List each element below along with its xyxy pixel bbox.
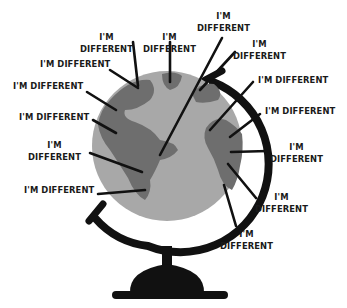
label-line: I'M DIFFERENT	[19, 111, 89, 123]
label-line: I'M	[233, 38, 286, 50]
label-l9: I'M DIFFERENT	[265, 105, 335, 117]
label-line: I'M DIFFERENT	[13, 80, 83, 92]
label-l8: I'M DIFFERENT	[258, 74, 328, 86]
label-l2: I'M DIFFERENT	[143, 31, 196, 55]
globe-base-foot	[112, 291, 228, 299]
label-line: I'M DIFFERENT	[24, 184, 94, 196]
label-line: I'M	[197, 10, 250, 22]
label-line: DIFFERENT	[255, 203, 308, 215]
label-line: I'M	[220, 228, 273, 240]
label-line: DIFFERENT	[143, 43, 196, 55]
pointer-l14	[224, 185, 236, 226]
label-l6: I'M DIFFERENT	[13, 80, 83, 92]
label-line: DIFFERENT	[197, 22, 250, 34]
label-l14: I'M DIFFERENT	[220, 228, 273, 252]
label-l13: I'M DIFFERENT	[255, 191, 308, 215]
pointer-l11	[231, 151, 268, 152]
label-line: I'M	[270, 141, 323, 153]
label-line: DIFFERENT	[233, 50, 286, 62]
globe-stem	[162, 246, 172, 266]
label-l4: I'M DIFFERENT	[40, 58, 110, 70]
label-line: I'M DIFFERENT	[40, 58, 110, 70]
globe-illustration: I'M DIFFERENT I'M DIFFERENT I'M DIFFEREN…	[0, 0, 347, 308]
label-l5: I'M DIFFERENT	[233, 38, 286, 62]
label-line: I'M	[80, 31, 133, 43]
label-l7: I'M DIFFERENT	[19, 111, 89, 123]
label-line: DIFFERENT	[220, 240, 273, 252]
label-line: DIFFERENT	[28, 151, 81, 163]
label-line: DIFFERENT	[80, 43, 133, 55]
label-l1: I'M DIFFERENT	[80, 31, 133, 55]
label-l10: I'M DIFFERENT	[28, 139, 81, 163]
label-line: DIFFERENT	[270, 153, 323, 165]
label-l12: I'M DIFFERENT	[24, 184, 94, 196]
label-line: I'M	[255, 191, 308, 203]
label-line: I'M DIFFERENT	[258, 74, 328, 86]
label-line: I'M DIFFERENT	[265, 105, 335, 117]
globe-base	[130, 264, 204, 294]
label-line: I'M	[28, 139, 81, 151]
label-l11: I'M DIFFERENT	[270, 141, 323, 165]
label-l3: I'M DIFFERENT	[197, 10, 250, 34]
label-line: I'M	[143, 31, 196, 43]
